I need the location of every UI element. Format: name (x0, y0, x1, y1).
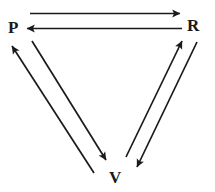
diagram-vector-layer (0, 0, 215, 192)
edge-r-to-v (137, 42, 197, 167)
edge-v-to-p (12, 46, 94, 173)
node-label-p: P (8, 19, 18, 36)
node-label-r: R (187, 17, 199, 34)
diagram-canvas: P R V (0, 0, 215, 192)
edge-p-to-v (32, 41, 106, 160)
node-label-v: V (109, 169, 121, 186)
edge-v-to-r (126, 41, 182, 157)
